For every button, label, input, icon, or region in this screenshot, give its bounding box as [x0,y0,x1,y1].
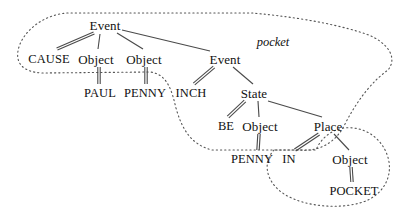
edge-stroke [229,102,246,118]
node-state: State [241,87,268,100]
edge-stroke [117,33,143,49]
edge-stroke [193,66,213,83]
edge-event2-to-state [233,67,253,84]
edge-stroke [122,30,210,51]
edge-state-to-object3 [258,101,259,117]
edge-object1-to-paul [98,67,100,84]
node-pocket: POCKET [329,185,378,198]
region-label-pocket: pocket [257,36,290,49]
node-place: Place [314,120,343,133]
node-be: BE [218,120,234,133]
node-event1: Event [90,19,121,32]
node-event2: Event [210,53,241,66]
edge-object4-to-pocket [350,167,353,182]
edge-place-to-in [294,133,319,151]
node-object3: Object [242,120,277,133]
edge-stroke [257,134,258,150]
edge-stroke [57,34,94,50]
edge-stroke [296,135,320,151]
node-object2: Object [126,53,161,66]
edge-object3-to-penny2 [257,134,260,150]
edge-object2-to-penny1 [145,67,147,84]
edge-event1-to-object2 [117,33,143,49]
node-paul: PAUL [84,87,116,100]
edge-stroke [227,100,244,116]
edge-stroke [98,34,100,49]
edge-stroke [57,32,94,48]
dotted-region-layer [18,13,392,206]
edge-stroke [268,101,322,117]
node-object1: Object [78,53,113,66]
conceptual-structure-diagram: EventCAUSEObjectObjectPAULPENNYEventINCH… [0,0,403,218]
edge-event2-to-inch [193,66,215,85]
edge-event1-to-object1 [98,34,100,49]
edge-stroke [350,167,351,182]
edge-stroke [259,134,260,150]
edge-stroke [233,67,253,84]
node-object4: Object [332,153,367,166]
node-penny1: PENNY [124,87,166,100]
edge-stroke [352,167,353,182]
edge-place-to-object4 [334,134,349,150]
node-cause: CAUSE [28,53,69,66]
edge-event1-to-event2 [122,30,210,51]
node-inch: INCH [176,87,207,100]
edge-state-to-place [268,101,322,117]
node-in: IN [282,153,295,166]
edge-stroke [294,133,318,149]
edge-event1-to-cause [57,32,95,50]
edge-state-to-be [227,100,246,118]
node-penny2: PENNY [231,153,273,166]
edge-stroke [195,68,215,85]
edge-stroke [258,101,259,117]
edge-stroke [334,134,349,150]
